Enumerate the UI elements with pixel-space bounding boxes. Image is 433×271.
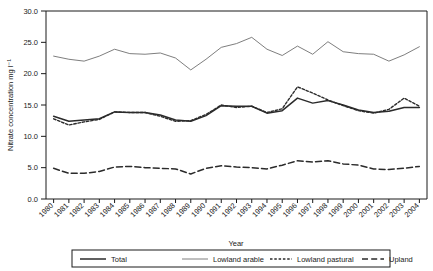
x-tick-label: 1998 [311,201,329,219]
y-tick-label: 20.0 [23,69,38,78]
x-tick-label: 1987 [144,201,162,219]
x-tick-label: 1985 [113,201,131,219]
x-tick-label: 1980 [37,201,55,219]
x-tick-label: 2003 [387,201,405,219]
y-axis-title: Nitrate concentration mg l⁻¹ [6,59,15,151]
x-tick-label: 1996 [281,201,299,219]
x-tick-label: 1984 [98,201,116,219]
y-tick-label: 0.0 [28,195,38,204]
x-tick-label: 1999 [326,201,344,219]
x-tick-label: 2004 [403,201,421,219]
x-axis-ticks: 1980198119821983198419851986198719881989… [37,199,421,219]
y-tick-label: 10.0 [23,132,38,141]
y-tick-label: 25.0 [23,38,38,47]
x-tick-label: 1991 [205,201,223,219]
y-axis-ticks: 0.05.010.015.020.025.030.0 [23,7,46,204]
nitrate-concentration-line-chart: 0.05.010.015.020.025.030.0 1980198119821… [0,0,433,271]
legend-label-total: Total [111,255,127,264]
x-tick-label: 1993 [235,201,253,219]
chart-legend: TotalLowland arableLowland pasturalUplan… [72,250,413,267]
x-axis-title: Year [228,239,244,248]
legend-label-upland: Upland [389,255,413,264]
x-tick-label: 1981 [52,201,70,219]
x-tick-label: 1997 [296,201,314,219]
y-tick-label: 30.0 [23,7,38,16]
x-tick-label: 2002 [372,201,390,219]
x-tick-label: 1995 [265,201,283,219]
x-tick-label: 2000 [342,201,360,219]
chart-figure: 0.05.010.015.020.025.030.0 1980198119821… [0,0,433,271]
legend-label-lowland-pastural: Lowland pastural [297,255,354,264]
y-tick-label: 15.0 [23,101,38,110]
y-tick-label: 5.0 [28,163,38,172]
x-tick-label: 1983 [83,201,101,219]
legend-label-lowland-arable: Lowland arable [213,255,264,264]
x-tick-label: 1986 [128,201,146,219]
x-tick-label: 1982 [67,201,85,219]
x-tick-label: 1988 [159,201,177,219]
x-tick-label: 2001 [357,201,375,219]
x-tick-label: 1989 [174,201,192,219]
x-tick-label: 1992 [220,201,238,219]
x-tick-label: 1994 [250,201,268,219]
x-tick-label: 1990 [189,201,207,219]
